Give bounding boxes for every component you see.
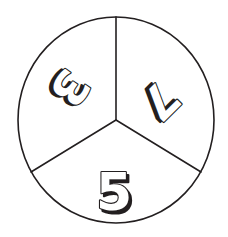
- spinner-wheel-canvas: 3 3 7 7 5 5: [0, 0, 228, 237]
- sector-label-five-group: 5 5: [96, 162, 135, 225]
- sector-label-five: 5: [96, 162, 132, 222]
- spinner-wheel-figure: 3 3 7 7 5 5: [0, 0, 228, 237]
